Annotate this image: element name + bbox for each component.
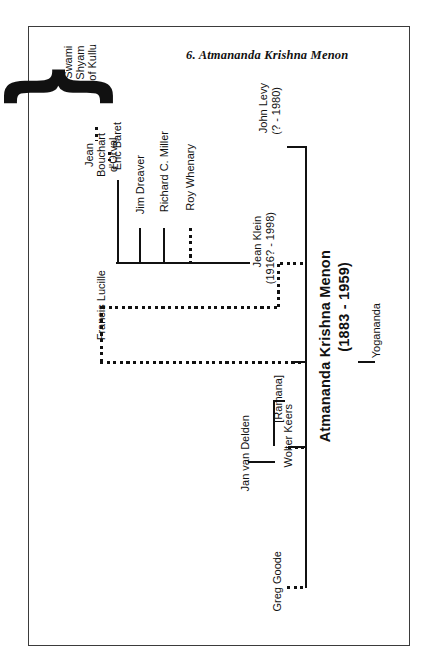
edge-eric-baret-to-jean-klein [117,180,119,264]
edge-john-levy-to-atmananda [287,146,307,148]
edge-jean-klein-to-francis-lucille [102,306,280,309]
edge-ramana-corner-horizontal [273,400,285,402]
node-jim-dreaver: Jim Dreaver [135,155,147,214]
edge-jim-dreaver-to-jean-klein [139,228,141,264]
edge-yogananda-to-atmananda [358,361,375,363]
root-node-name: Atmananda Krishna Menon [318,250,334,442]
node-roy-whenary: Roy Whenary [185,144,197,211]
node-richard-c-miller: Richard C. Miller [159,131,171,212]
node-greg-goode: Greg Goode [272,551,284,612]
node-jan-van-delden: Jan van Delden [240,415,252,491]
brace-glyph: } [3,91,104,112]
node-jean-klein: Jean Klein [252,216,264,267]
node-john-levy: John Levy [258,83,270,133]
node-swami-shyam-of-kullu: Swami Shyam of Kullu [63,44,99,81]
edge-wolter-keers-to-atmananda [288,446,307,449]
diagram-page: 6. Atmananda Krishna Menon } Swami Shyam… [0,0,436,668]
edge-richard-c-miller-to-jean-klein [163,228,165,264]
edge-greg-goode-to-atmananda [287,586,307,589]
atmananda-main-spine [305,146,307,588]
node-yogananda: Yogananda [371,303,383,358]
edge-francis-lucille-corner [100,306,103,363]
edge-jan-van-delden-to-wolter-keers [248,461,275,463]
node-eric-baret: Éric Baret [112,122,124,170]
page-border-frame [28,26,410,646]
grouping-brace: } [3,85,131,119]
edge-brace-to-eric-baret [95,127,98,141]
node-john-levy-dates: (? - 1980) [271,87,283,135]
edge-jean-klein-to-francis-lucille-vertical [277,264,280,308]
edge-francis-lucille-to-atmananda [100,361,305,364]
page-title: 6. Atmananda Krishna Menon [186,48,348,63]
edge-ramana-corner-vertical [273,400,275,446]
spine-tick-yogananda [295,361,307,363]
node-wolter-keers: Wolter Keers [283,404,295,467]
edge-roy-whenary-to-jean-klein [189,228,192,264]
edge-jean-klein-to-atmananda [280,262,303,265]
node-jean-klein-dates: (1916? - 1998) [265,212,277,284]
jean-klein-children-bar [116,262,250,264]
root-node-dates: (1883 - 1959) [337,262,353,352]
